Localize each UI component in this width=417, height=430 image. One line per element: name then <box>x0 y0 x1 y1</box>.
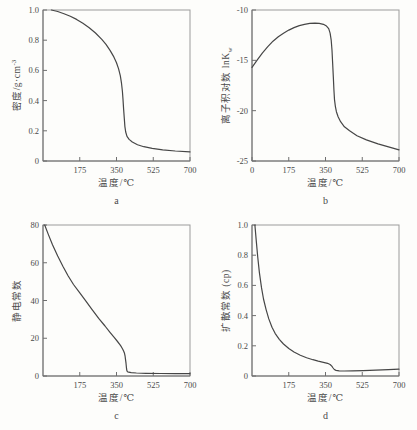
y-axis-label-d: 扩散常数 (cp) <box>217 226 230 376</box>
plot-frame <box>252 225 399 376</box>
y-tick-label: 60 <box>31 258 40 268</box>
y-axis-label-b: 离子积对数 lnKw <box>217 11 230 161</box>
data-curve <box>255 225 399 371</box>
y-axis-label-c: 静电常数 <box>8 226 21 376</box>
x-tick-label: 700 <box>393 165 406 175</box>
plot-frame <box>43 225 190 376</box>
y-tick-label: 80 <box>31 220 40 230</box>
y-axis-label-text: 离子积对数 lnK <box>221 52 231 123</box>
plot-frame <box>43 10 190 161</box>
y-tick-label: 0.8 <box>28 35 39 45</box>
x-tick-label: 175 <box>282 380 295 390</box>
y-axis-label-a: 密度/g·cm-3 <box>8 11 21 161</box>
panel-letter-c: c <box>43 410 190 421</box>
y-axis-label-text: 密度/g·cm <box>12 66 22 112</box>
y-tick-label: 0.6 <box>28 65 39 75</box>
y-tick-label: -15 <box>237 55 248 65</box>
panel-letter-a: a <box>43 195 190 206</box>
x-tick-label: 525 <box>356 380 369 390</box>
axis-lines <box>252 10 399 161</box>
x-tick-label: 175 <box>73 380 86 390</box>
x-tick-label: 0 <box>250 165 254 175</box>
data-curve <box>51 10 190 152</box>
panel-a: 17535052570000.20.40.60.81.0 密度/g·cm-3 温… <box>0 0 208 215</box>
y-tick-label: 0.6 <box>237 280 248 290</box>
data-curve <box>45 225 190 374</box>
y-tick-label: 1.0 <box>28 5 39 15</box>
panel-d: 17535052570000.20.40.60.81.0 扩散常数 (cp) 温… <box>209 215 417 430</box>
four-panel-figure: 17535052570000.20.40.60.81.0 密度/g·cm-3 温… <box>0 0 417 430</box>
plot-frame <box>252 10 399 161</box>
x-axis-label-d: 温度/℃ <box>252 390 399 404</box>
y-tick-label: 0 <box>35 371 39 381</box>
axis-lines <box>252 225 399 376</box>
x-tick-label: 350 <box>319 165 332 175</box>
y-tick-label: -25 <box>237 156 248 166</box>
panel-letter-b: b <box>252 195 399 206</box>
y-tick-label: 0.2 <box>28 126 39 136</box>
x-tick-label: 525 <box>356 165 369 175</box>
y-axis-label-text: 扩散常数 (cp) <box>221 269 231 331</box>
panel-b: 0175350525700-25-20-15-10 离子积对数 lnKw 温度/… <box>209 0 417 215</box>
x-axis-label-b: 温度/℃ <box>252 175 399 189</box>
x-tick-label: 175 <box>282 165 295 175</box>
y-tick-label: 0.8 <box>237 250 248 260</box>
y-tick-label: 0.4 <box>237 311 248 321</box>
y-tick-label: 20 <box>31 333 40 343</box>
y-axis-label-sub: w <box>226 47 234 52</box>
x-tick-label: 525 <box>147 165 160 175</box>
y-tick-label: -10 <box>237 5 248 15</box>
y-tick-label: 0.2 <box>237 341 248 351</box>
y-tick-label: 0 <box>244 371 248 381</box>
x-tick-label: 350 <box>110 165 123 175</box>
y-tick-label: 40 <box>31 296 40 306</box>
y-axis-label-sup: -3 <box>10 60 18 66</box>
x-tick-label: 525 <box>147 380 160 390</box>
x-tick-label: 700 <box>184 165 197 175</box>
x-axis-label-c: 温度/℃ <box>43 390 190 404</box>
y-tick-label: 0 <box>35 156 39 166</box>
axis-lines <box>43 10 190 161</box>
x-tick-label: 350 <box>110 380 123 390</box>
y-tick-label: 0.4 <box>28 96 39 106</box>
y-tick-label: 1.0 <box>237 220 248 230</box>
y-axis-label-text: 静电常数 <box>12 280 22 322</box>
x-tick-label: 350 <box>319 380 332 390</box>
x-axis-label-a: 温度/℃ <box>43 175 190 189</box>
axis-lines <box>43 225 190 376</box>
x-tick-label: 700 <box>393 380 406 390</box>
x-tick-label: 175 <box>73 165 86 175</box>
y-tick-label: -20 <box>237 106 248 116</box>
panel-c: 175350525700020406080 静电常数 温度/℃ c <box>0 215 208 430</box>
x-tick-label: 700 <box>184 380 197 390</box>
panel-letter-d: d <box>252 410 399 421</box>
data-curve <box>252 23 399 150</box>
